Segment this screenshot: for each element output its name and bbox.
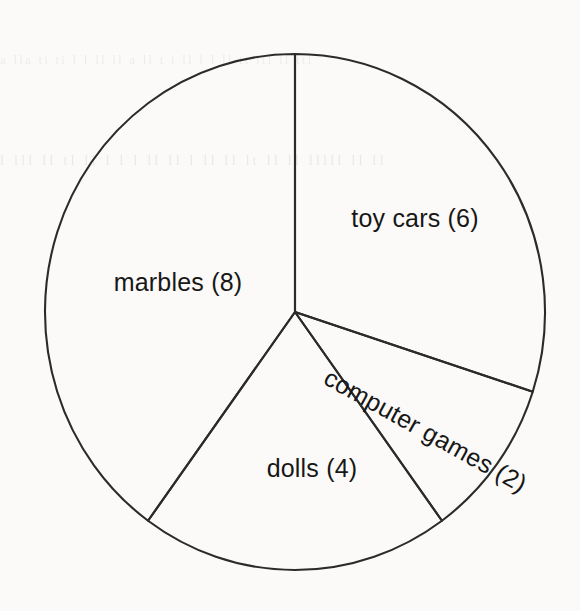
pie-slice-label-toy-cars: toy cars (6) — [351, 204, 478, 232]
pie-chart: toy cars (6)computer games (2)dolls (4)m… — [0, 0, 580, 611]
pie-chart-page: a lla ti ti l l ll ll a ll t i ll l l ll… — [0, 0, 580, 611]
pie-slice-dolls — [148, 312, 442, 570]
pie-slice-label-dolls: dolls (4) — [267, 454, 358, 482]
pie-slice-label-marbles: marbles (8) — [114, 268, 243, 296]
pie-slices-group — [45, 54, 545, 570]
